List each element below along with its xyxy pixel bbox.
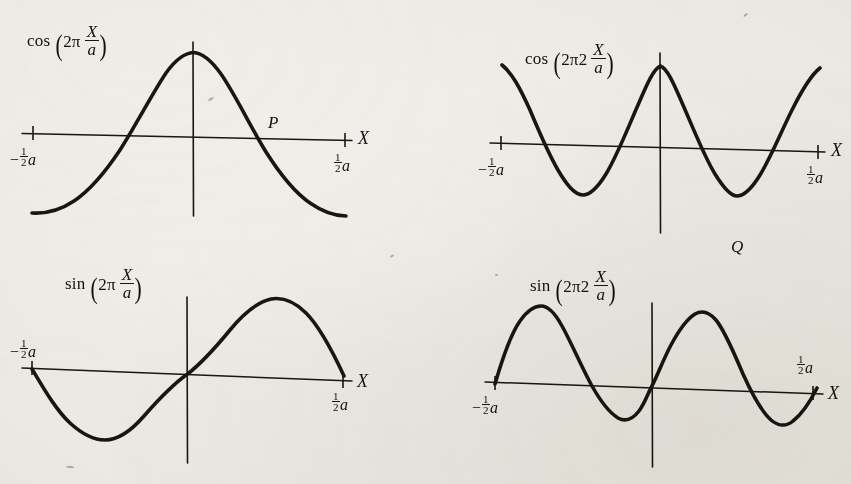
fraction-denominator: a [85,40,100,60]
open-paren: ( [553,49,560,77]
formula-fraction: Xa [120,266,135,303]
open-paren: ( [55,31,62,59]
fraction-numerator: X [85,23,100,40]
formula-function: sin [530,276,550,295]
minus-sign: − [478,161,487,178]
y-axis [193,42,194,216]
tick-variable: a [490,399,498,416]
close-paren: ) [609,276,616,304]
minus-sign: − [10,151,19,168]
formula-cos-2: cos (2π2Xa) [525,41,614,78]
formula-fraction: Xa [591,41,606,78]
panel-cos-1: cos (2πXa) X −12a 12a P [0,0,400,250]
tick-variable: a [342,157,350,174]
fraction-numerator: X [120,266,135,283]
tick-label-left: −12a [10,146,36,168]
tick-label-right: 12a [334,152,350,174]
x-axis [22,134,352,141]
tick-label-right: 12a [807,164,823,186]
close-paren: ) [606,49,613,77]
formula-fraction: Xa [594,268,609,305]
plot-sin-2 [430,250,851,484]
x-axis-label: X [831,141,842,159]
formula-function: cos [27,31,50,50]
panel-cos-2: cos (2π2Xa) X −12a 12a Q [430,0,851,262]
close-paren: ) [135,274,142,302]
formula-coefficient: 2π2 [561,50,587,69]
fraction-numerator: X [591,41,606,58]
tick-label-left: −12a [10,338,36,360]
tick-variable: a [340,396,348,413]
fraction-denominator: a [591,58,606,78]
point-label-P: P [268,114,278,131]
panel-sin-1: sin (2πXa) X −12a 12a [0,250,400,484]
plot-sin-1 [0,250,400,484]
scan-speck [495,274,498,276]
x-axis-label: X [358,129,369,147]
formula-coefficient: 2π [98,275,115,294]
formula-fraction: Xa [85,23,100,60]
half-fraction: 12 [20,146,28,167]
tick-variable: a [805,359,813,376]
half-fraction: 12 [482,394,490,415]
fraction-numerator: X [594,268,609,285]
half-fraction: 12 [488,156,496,177]
figure-page: cos (2πXa) X −12a 12a P cos (2π2Xa) X −1… [0,0,851,484]
minus-sign: − [472,399,481,416]
formula-coefficient: 2π [63,32,80,51]
tick-label-right: 12a [797,354,813,376]
fraction-denominator: a [120,283,135,303]
formula-cos-1: cos (2πXa) [27,23,107,60]
tick-label-left: −12a [472,394,498,416]
half-fraction: 12 [807,164,815,185]
minus-sign: − [10,343,19,360]
y-axis [660,53,661,233]
open-paren: ( [91,274,98,302]
tick-label-right: 12a [332,391,348,413]
formula-function: sin [65,274,85,293]
x-axis-label: X [357,372,368,390]
half-fraction: 12 [20,338,28,359]
half-fraction: 12 [334,152,342,173]
curve-sin-2 [495,306,817,425]
plot-cos-2 [430,0,851,262]
fraction-denominator: a [594,285,609,305]
tick-variable: a [28,151,36,168]
tick-variable: a [28,343,36,360]
formula-sin-2: sin (2π2Xa) [530,268,616,305]
half-fraction: 12 [332,391,340,412]
tick-variable: a [496,161,504,178]
panel-sin-2: sin (2π2Xa) X −12a 12a [430,250,851,484]
y-axis [187,297,188,463]
formula-sin-1: sin (2πXa) [65,266,143,303]
close-paren: ) [100,31,107,59]
formula-function: cos [525,49,548,68]
tick-variable: a [815,169,823,186]
x-axis-label: X [828,384,839,402]
formula-coefficient: 2π2 [563,277,589,296]
tick-label-left: −12a [478,156,504,178]
open-paren: ( [556,276,563,304]
half-fraction: 12 [797,354,805,375]
